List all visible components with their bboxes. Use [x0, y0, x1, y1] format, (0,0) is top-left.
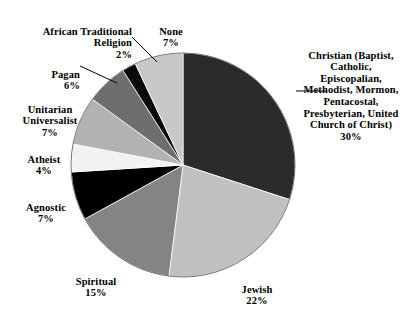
- pie-label-text-african-traditional-religion: African Traditional Religion: [43, 26, 132, 49]
- pie-chart-figure: African Traditional Religion 2% None 7% …: [0, 0, 409, 310]
- pie-label-text-christian: Christian (Baptist, Catholic, Episcopali…: [303, 50, 398, 131]
- pie-label-text-pagan: Pagan: [51, 69, 80, 80]
- pie-label-percent-unitarian-universalist: 7%: [2, 127, 98, 139]
- pie-label-text-atheist: Atheist: [28, 154, 61, 165]
- pie-slice-group: [71, 53, 295, 277]
- pie-label-text-unitarian-universalist: Unitarian Universalist: [23, 104, 78, 127]
- pie-label-christian: Christian (Baptist, Catholic, Episcopali…: [295, 38, 407, 154]
- pie-label-text-none: None: [159, 26, 183, 37]
- pie-label-text-agnostic: Agnostic: [26, 202, 66, 213]
- pie-label-none: None 7%: [140, 14, 202, 60]
- pie-label-percent-agnostic: 7%: [8, 213, 84, 225]
- pie-label-text-spiritual: Spiritual: [76, 276, 117, 287]
- pie-label-percent-pagan: 6%: [10, 80, 80, 92]
- pie-label-jewish: Jewish 22%: [226, 272, 288, 310]
- pie-label-percent-jewish: 22%: [226, 295, 288, 307]
- pie-label-percent-none: 7%: [140, 37, 202, 49]
- pie-label-agnostic: Agnostic 7%: [8, 190, 84, 236]
- pie-label-spiritual: Spiritual 15%: [54, 264, 138, 310]
- pie-label-text-jewish: Jewish: [242, 284, 273, 295]
- pie-label-percent-spiritual: 15%: [54, 287, 138, 299]
- pie-label-percent-christian: 30%: [295, 131, 407, 143]
- pie-label-percent-atheist: 4%: [6, 165, 82, 177]
- pie-label-atheist: Atheist 4%: [6, 142, 82, 188]
